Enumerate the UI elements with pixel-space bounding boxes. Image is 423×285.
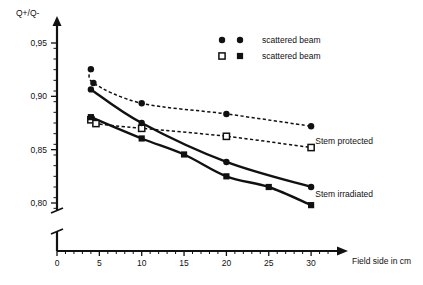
data-point-circle — [308, 184, 314, 190]
x-axis-arrowhead — [337, 247, 348, 256]
legend-label: scattered beam — [262, 51, 321, 61]
data-point-circle — [237, 37, 243, 43]
data-point-open-square — [223, 133, 229, 139]
data-point-square — [139, 135, 145, 141]
x-axis-tick-label: 0 — [55, 258, 60, 268]
data-point-open-square — [219, 53, 225, 59]
y-axis-tick-label: 0,95 — [30, 38, 47, 48]
data-points-group — [88, 66, 315, 208]
y-axis-arrowhead — [53, 16, 62, 26]
series-curve-3 — [91, 117, 311, 205]
data-point-square — [266, 184, 272, 190]
chart-legend: scattered beamscattered beam — [219, 35, 321, 61]
legend-label: scattered beam — [262, 35, 321, 45]
x-axis-tick-label: 5 — [97, 258, 102, 268]
y-axis-title: Q+/Q- — [16, 8, 40, 18]
y-axis-tick-label: 0,80 — [30, 198, 47, 208]
data-point-open-square — [308, 144, 314, 150]
legend-row-0: scattered beam — [219, 35, 321, 45]
y-axis-break — [51, 208, 63, 234]
data-point-circle — [223, 159, 229, 165]
data-point-circle — [219, 37, 225, 43]
legend-row-1: scattered beam — [219, 51, 321, 61]
data-point-circle — [139, 120, 145, 126]
data-point-square — [88, 114, 94, 120]
annotation-label-1: Stem irradiated — [315, 189, 373, 199]
data-point-circle — [88, 66, 94, 72]
data-point-square — [237, 53, 243, 59]
chart-figure: 0,800,850,900,95Q+/Q-051015202530Field s… — [0, 0, 423, 285]
x-axis-tick-label: 20 — [222, 258, 232, 268]
data-point-open-square — [93, 120, 99, 126]
data-point-square — [223, 173, 229, 179]
series-curve-2 — [91, 89, 311, 187]
data-point-circle — [139, 100, 145, 106]
x-axis-tick-label: 15 — [179, 258, 189, 268]
series-curve-0 — [89, 69, 311, 126]
data-point-square — [181, 151, 187, 157]
data-point-circle — [223, 111, 229, 117]
x-axis-title: Field side in cm — [352, 256, 411, 266]
x-axis-tick-label: 10 — [137, 258, 147, 268]
data-curves-group — [89, 69, 311, 205]
data-point-circle — [88, 86, 94, 92]
y-axis-tick-label: 0,90 — [30, 91, 47, 101]
annotation-label-0: Stem protected — [315, 136, 373, 146]
data-point-circle — [308, 123, 314, 129]
y-axis-tick-label: 0,85 — [30, 145, 47, 155]
data-point-square — [308, 202, 314, 208]
x-axis-tick-label: 30 — [306, 258, 316, 268]
x-axis-tick-label: 25 — [264, 258, 274, 268]
annotations-group: Stem protectedStem irradiated — [315, 136, 373, 199]
series-curve-1 — [91, 120, 312, 148]
chart-canvas: 0,800,850,900,95Q+/Q-051015202530Field s… — [0, 0, 423, 285]
data-point-circle — [90, 80, 96, 86]
